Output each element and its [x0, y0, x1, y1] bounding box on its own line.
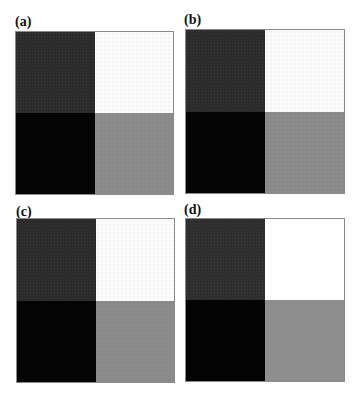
quadrant-top-left — [16, 32, 95, 113]
quadrant-image-b — [185, 29, 345, 194]
panel-label-c: (c) — [16, 205, 32, 219]
quadrant-bottom-left — [16, 113, 95, 194]
quadrant-top-left — [186, 30, 265, 112]
quadrant-bottom-left — [17, 301, 96, 383]
quadrant-top-right — [96, 219, 175, 301]
quadrant-bottom-left — [186, 300, 265, 381]
panel-label-a: (a) — [15, 15, 31, 29]
quadrant-bottom-right — [265, 300, 344, 381]
panel-label-b: (b) — [184, 13, 201, 27]
quadrant-top-left — [17, 219, 96, 301]
quadrant-bottom-right — [96, 301, 175, 383]
quadrant-top-right — [265, 219, 344, 300]
quadrant-bottom-right — [95, 113, 174, 194]
quadrant-bottom-left — [186, 112, 265, 194]
quadrant-bottom-right — [265, 112, 344, 194]
panel-label-d: (d) — [184, 203, 201, 217]
quadrant-top-right — [95, 32, 174, 113]
quadrant-image-d — [185, 218, 345, 382]
quadrant-top-left — [186, 219, 265, 300]
quadrant-top-right — [265, 30, 344, 112]
quadrant-image-c — [16, 218, 175, 383]
quadrant-image-a — [15, 31, 174, 195]
